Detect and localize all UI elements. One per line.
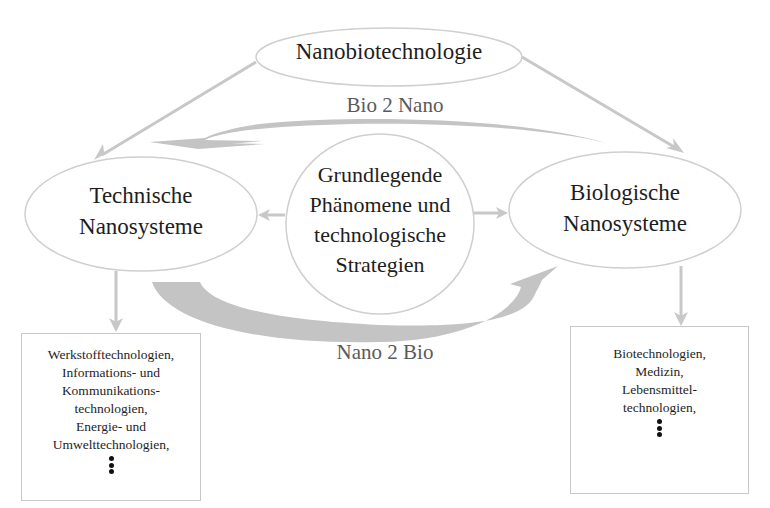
vertical-ellipsis-icon [108, 456, 114, 474]
box-line: technologien, [22, 400, 200, 418]
box-line: technologien, [571, 399, 748, 417]
arrow-center-to-right [474, 207, 508, 219]
node-label-line: Phänomene und [288, 190, 472, 220]
box-line: Lebensmittel- [571, 381, 748, 399]
node-biologische-nanosysteme: Biologische Nanosysteme [514, 177, 736, 239]
node-label-line: Strategien [288, 250, 472, 280]
arrow-label-bio-2-nano: Bio 2 Nano [320, 93, 470, 118]
node-label-line: Technische [30, 180, 252, 211]
arrow-left-to-box [109, 271, 123, 332]
box-line: Informations- und [22, 364, 200, 382]
arrow-center-to-left [258, 209, 285, 221]
arrow-top-to-right [522, 57, 684, 153]
arrow-right-to-box [674, 266, 688, 326]
node-label-line: Nanosysteme [514, 208, 736, 239]
box-line: Umwelttechnologien, [22, 436, 200, 454]
box-line: Biotechnologien, [571, 345, 748, 363]
box-line: Medizin, [571, 363, 748, 381]
box-line: Energie- und [22, 418, 200, 436]
arrow-label-nano-2-bio: Nano 2 Bio [305, 340, 465, 365]
node-label-line: technologische [288, 220, 472, 250]
box-technical-applications: Werkstofftechnologien, Informations- und… [21, 333, 201, 501]
node-label-line: Nanosysteme [30, 211, 252, 242]
box-line: Kommunikations- [22, 382, 200, 400]
node-label: Nanobiotechnologie [296, 39, 483, 64]
node-label-line: Grundlegende [288, 160, 472, 190]
node-label-line: Biologische [514, 177, 736, 208]
node-technische-nanosysteme: Technische Nanosysteme [30, 180, 252, 242]
box-biological-applications: Biotechnologien, Medizin, Lebensmittel- … [570, 326, 749, 494]
node-grundlegende-phaenomene: Grundlegende Phänomene und technologisch… [288, 160, 472, 280]
box-line: Werkstofftechnologien, [22, 346, 200, 364]
vertical-ellipsis-icon [657, 419, 663, 437]
node-nanobiotechnologie: Nanobiotechnologie [255, 38, 523, 66]
